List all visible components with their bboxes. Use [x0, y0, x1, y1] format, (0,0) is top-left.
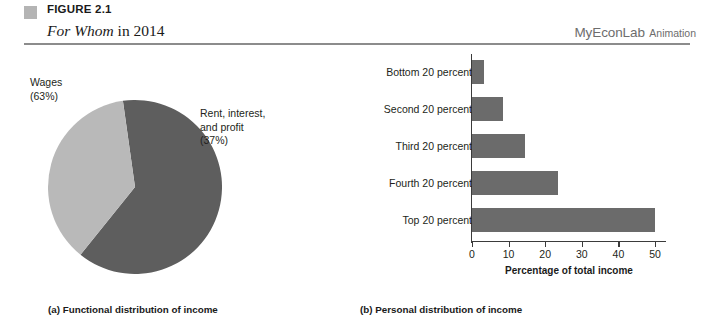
x-tick-label: 20	[539, 248, 551, 260]
figure-title-italic: For Whom	[47, 22, 114, 39]
bar-chart-row: Fourth 20 percent	[360, 169, 714, 199]
x-tick-label: 10	[503, 248, 515, 260]
bar-chart-row: Second 20 percent	[360, 95, 714, 125]
myeconlab-brand: MyEconLab	[574, 25, 644, 40]
bar-rect	[472, 134, 525, 158]
bar-chart-x-axis: 01020304050 Percentage of total income	[360, 241, 714, 301]
x-tick-mark	[545, 241, 546, 247]
bar-rect	[472, 208, 655, 232]
pie-slice-label-wages-line1: Wages	[30, 76, 62, 90]
bar-rect	[472, 97, 503, 121]
pie-slice-label-wages-line2: (63%)	[30, 90, 62, 104]
bar-rect	[472, 171, 558, 195]
bar-rect	[472, 60, 484, 84]
pie-slice-label-rent-line3: (37%)	[200, 134, 265, 148]
x-tick-mark	[509, 241, 510, 247]
x-tick-mark	[655, 241, 656, 247]
figure-title-rest: in 2014	[114, 22, 165, 39]
myeconlab-suffix: Animation	[649, 27, 696, 39]
bar-chart-row: Bottom 20 percent	[360, 58, 714, 88]
panel-b-personal-distribution: Bottom 20 percentSecond 20 percentThird …	[360, 46, 714, 323]
bar-category-label: Top 20 percent	[403, 214, 472, 226]
pie-slice-label-rent-line2: and profit	[200, 121, 265, 135]
bar-chart-row: Third 20 percent	[360, 132, 714, 162]
pie-chart-svg	[48, 100, 222, 274]
figure-header: FIGURE 2.1 For Whom in 2014 MyEconLab An…	[0, 0, 714, 46]
x-tick-label: 0	[469, 248, 475, 260]
figure-marker-square	[24, 6, 37, 19]
x-tick-mark	[582, 241, 583, 247]
x-tick-mark	[472, 241, 473, 247]
bar-category-label: Third 20 percent	[396, 140, 472, 152]
pie-slice-label-wages: Wages (63%)	[30, 76, 62, 103]
bar-category-label: Fourth 20 percent	[389, 177, 472, 189]
x-tick-mark	[618, 241, 619, 247]
pie-chart	[48, 100, 222, 274]
bar-chart-x-axis-line	[472, 241, 666, 242]
pie-slice-label-rent: Rent, interest, and profit (37%)	[200, 107, 265, 148]
bar-chart-row: Top 20 percent	[360, 206, 714, 236]
x-tick-label: 30	[576, 248, 588, 260]
figure-title: For Whom in 2014	[47, 22, 165, 40]
pie-slice-label-rent-line1: Rent, interest,	[200, 107, 265, 121]
panel-a-caption: (a) Functional distribution of income	[48, 304, 218, 315]
bar-category-label: Second 20 percent	[384, 103, 472, 115]
figure-number: FIGURE 2.1	[47, 3, 112, 15]
myeconlab-animation-link[interactable]: MyEconLab Animation	[574, 23, 696, 41]
panel-a-functional-distribution: Wages (63%) Rent, interest, and profit (…	[0, 46, 360, 323]
panel-b-caption: (b) Personal distribution of income	[360, 304, 522, 315]
x-tick-label: 40	[613, 248, 625, 260]
bar-chart-x-axis-title: Percentage of total income	[472, 265, 666, 276]
header-divider	[24, 43, 690, 45]
bar-category-label: Bottom 20 percent	[386, 66, 472, 78]
x-tick-label: 50	[649, 248, 661, 260]
